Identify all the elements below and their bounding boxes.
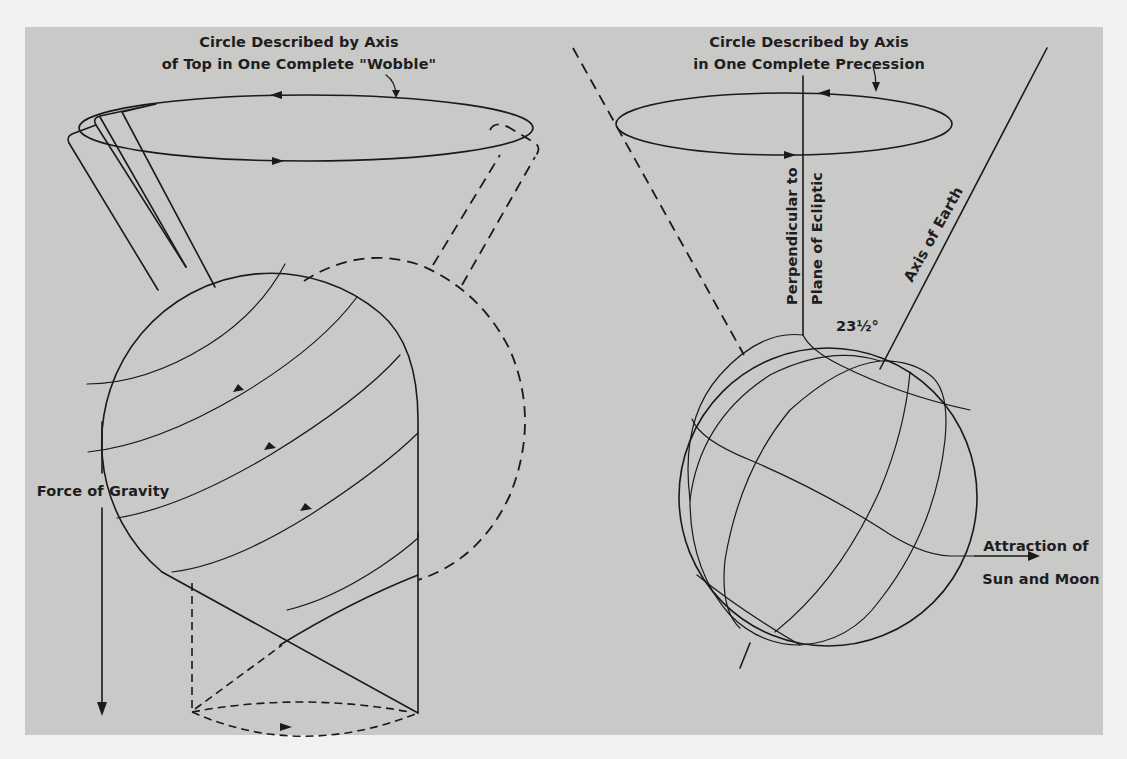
top-band-4 — [172, 433, 418, 572]
wobble-circle — [79, 95, 533, 161]
ghost-stem-right — [462, 157, 535, 285]
spinning-top — [68, 75, 539, 736]
base-diagonal-dashed — [195, 645, 282, 709]
wobble-label-line2: of Top in One Complete "Wobble" — [162, 56, 436, 72]
top-stem-left — [69, 143, 158, 290]
precession-arrow-bottom — [784, 151, 796, 159]
top-band-2 — [88, 297, 357, 452]
ghost-body-outline — [304, 258, 525, 580]
attraction-label-line1: Attraction of — [983, 538, 1089, 554]
top-stem-right — [100, 117, 186, 267]
globe-meridian-1 — [690, 355, 946, 645]
wobble-arrow-bottom — [272, 157, 284, 165]
top-band-1 — [87, 264, 285, 384]
globe-equator — [692, 419, 975, 556]
ghost-stem-left — [433, 155, 500, 265]
precession-arrow-top — [818, 89, 830, 97]
top-stem — [95, 104, 215, 287]
base-ellipse-back — [192, 702, 410, 712]
top-band-5 — [287, 538, 418, 610]
gravity-arrow-head — [97, 702, 107, 716]
globe-meridian-3 — [724, 361, 880, 628]
band-arrow-3 — [300, 503, 312, 511]
top-cone-left — [162, 572, 418, 713]
band-arrow-1 — [233, 384, 244, 392]
gravity-label: Force of Gravity — [37, 483, 170, 499]
earth-axis-label: Axis of Earth — [901, 184, 966, 284]
top-body-outline — [102, 273, 418, 572]
precession-pointer-head — [872, 82, 880, 92]
precession-diagram: Circle Described by Axis of Top in One C… — [0, 0, 1127, 759]
earth-precession — [573, 48, 1047, 668]
base-arrow — [280, 723, 292, 731]
precession-circle — [616, 93, 952, 155]
precession-label-line2: in One Complete Precession — [693, 56, 925, 72]
band-arrow-2 — [264, 442, 276, 450]
perpendicular-label-line2: Plane of Ecliptic — [809, 172, 825, 305]
globe-parallel-top — [803, 335, 970, 410]
tilt-angle-label: 23½° — [836, 318, 879, 334]
precession-label-line1: Circle Described by Axis — [709, 34, 909, 50]
globe-meridian-4 — [775, 372, 910, 632]
wobble-label-line1: Circle Described by Axis — [199, 34, 399, 50]
earth-axis-bottom — [740, 643, 750, 668]
wobble-arrow-top — [270, 91, 282, 99]
cone-dashed-line — [573, 48, 744, 355]
globe-meridian-2 — [688, 335, 803, 501]
attraction-label-line2: Sun and Moon — [982, 571, 1100, 587]
globe-parallel-bottom — [697, 575, 800, 645]
perpendicular-label-line1: Perpendicular to — [784, 167, 800, 305]
earth-axis-line — [880, 48, 1047, 369]
base-ellipse-front — [192, 712, 418, 736]
